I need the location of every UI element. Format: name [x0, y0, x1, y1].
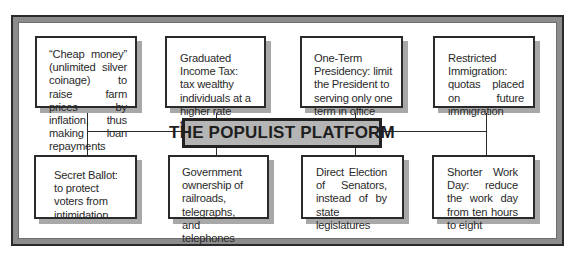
platform-box-restricted-immigration: Restricted Immigration: quotas placed on… — [433, 36, 535, 108]
connector-title-gov-ownership — [216, 147, 217, 155]
platform-box-shorter-work-day: Shorter Work Day: reduce the work day fr… — [432, 155, 535, 219]
platform-text: Direct Election of Senators, instead of … — [316, 166, 387, 232]
platform-text: One-Term Presidency: limit the President… — [314, 52, 395, 118]
platform-box-secret-ballot: Secret Ballot: to protect voters from in… — [34, 155, 137, 219]
platform-text: “Cheap money” (unlimited silver coinage)… — [49, 48, 127, 167]
platform-box-direct-election-senators: Direct Election of Senators, instead of … — [301, 155, 404, 219]
connector-title-direct-election — [355, 147, 356, 155]
platform-box-one-term-presidency: One-Term Presidency: limit the President… — [300, 36, 403, 108]
platform-box-government-ownership: Government ownership of railroads, teleg… — [168, 155, 269, 219]
platform-text: Government ownership of railroads, teleg… — [182, 166, 255, 245]
platform-text: Secret Ballot: to protect voters from in… — [54, 169, 121, 222]
title-box: THE POPULIST PLATFORM — [182, 118, 382, 148]
diagram-title: THE POPULIST PLATFORM — [169, 123, 395, 143]
platform-box-cheap-money: “Cheap money” (unlimited silver coinage)… — [35, 36, 137, 108]
platform-box-graduated-income-tax: Graduated Income Tax: tax wealthy indivi… — [165, 36, 266, 108]
platform-text: Restricted Immigration: quotas placed on… — [448, 52, 524, 118]
platform-text: Shorter Work Day: reduce the work day fr… — [447, 166, 518, 232]
